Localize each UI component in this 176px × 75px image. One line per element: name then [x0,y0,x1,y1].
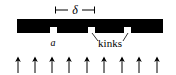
force-arrow [84,57,90,74]
force-arrow [136,57,142,74]
force-arrow [15,57,21,74]
kinks-label: kinks [98,37,122,49]
spacing-label-a: a [51,37,56,48]
kink-slab-figure: δ a kinks [0,0,176,75]
force-arrows [15,57,160,74]
figure-canvas: δ a kinks [0,0,176,75]
slab-body [17,19,163,33]
force-arrow [49,57,55,74]
force-arrow [119,57,125,74]
kinks-leader-line-right [123,33,128,41]
slab-with-kinks [17,19,163,33]
force-arrow [154,57,160,74]
delta-label: δ [72,3,78,17]
force-arrow [101,57,107,74]
delta-dimension-bracket: δ [55,3,95,17]
force-arrow [66,57,72,74]
force-arrow [32,57,38,74]
